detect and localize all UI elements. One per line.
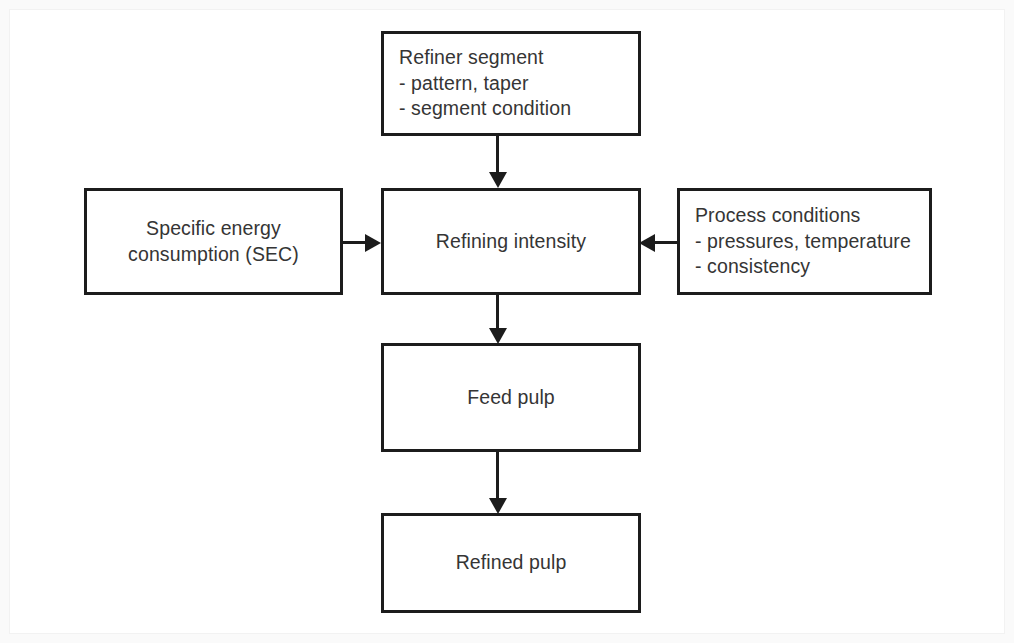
arrow-down-icon-segment-to-intensity: [489, 172, 507, 188]
node-refiner-segment: Refiner segment - pattern, taper - segme…: [381, 31, 641, 136]
arrow-down-icon-feed-to-refined: [489, 498, 507, 514]
node-refiner-segment-bullet-2: - segment condition: [399, 96, 571, 122]
node-process-conditions-bullet-1: - pressures, temperature: [695, 229, 911, 255]
node-refined-pulp-label: Refined pulp: [456, 550, 567, 576]
node-process-conditions-title: Process conditions: [695, 203, 860, 229]
node-refiner-segment-bullet-1: - pattern, taper: [399, 71, 529, 97]
node-refining-intensity: Refining intensity: [381, 188, 641, 295]
connector-segment-to-intensity-shaft: [496, 136, 499, 174]
diagram-canvas: Refiner segment - pattern, taper - segme…: [0, 0, 1014, 643]
connector-intensity-to-feed-shaft: [496, 295, 499, 330]
arrow-down-icon-intensity-to-feed: [489, 328, 507, 344]
connector-process-to-intensity-shaft: [655, 241, 677, 244]
node-process-conditions: Process conditions - pressures, temperat…: [677, 188, 932, 295]
connector-sec-to-intensity-shaft: [343, 241, 367, 244]
node-specific-energy-line-1: Specific energy: [146, 216, 281, 242]
arrow-right-icon-sec-to-intensity: [365, 234, 381, 252]
node-feed-pulp: Feed pulp: [381, 343, 641, 452]
arrow-left-icon-process-to-intensity: [639, 234, 655, 252]
node-refining-intensity-label: Refining intensity: [436, 229, 586, 255]
node-refined-pulp: Refined pulp: [381, 513, 641, 613]
node-specific-energy-line-2: consumption (SEC): [128, 242, 299, 268]
node-refiner-segment-title: Refiner segment: [399, 45, 544, 71]
node-process-conditions-bullet-2: - consistency: [695, 254, 810, 280]
connector-feed-to-refined-shaft: [496, 452, 499, 500]
node-specific-energy-consumption: Specific energy consumption (SEC): [84, 188, 343, 295]
node-feed-pulp-label: Feed pulp: [467, 385, 555, 411]
